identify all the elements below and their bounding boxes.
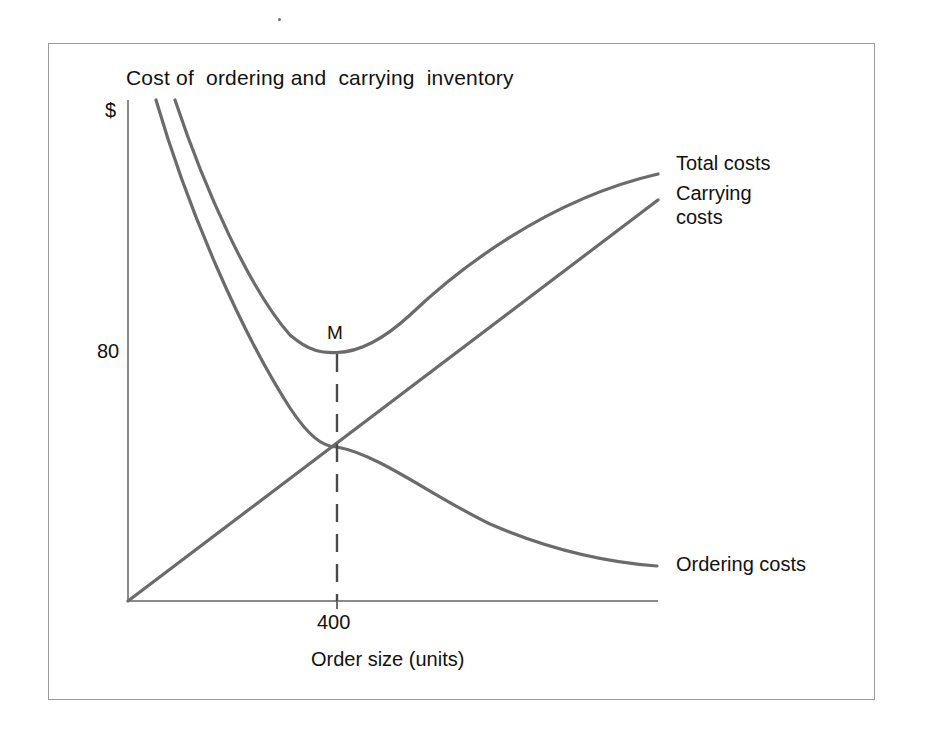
chart-title: Cost of ordering and carrying inventory [126, 66, 514, 91]
x-axis-tick-label-400: 400 [317, 611, 350, 635]
annotation-label-m: M [327, 322, 343, 344]
series-label-ordering-costs: Ordering costs [676, 553, 806, 577]
series-curve-total-costs [175, 100, 658, 353]
chart-plot-area [0, 0, 925, 739]
series-label-total-costs: Total costs [676, 152, 770, 176]
series-label-carrying-costs-line2: costs [676, 206, 723, 228]
series-line-carrying-costs [128, 200, 658, 601]
series-curve-ordering-costs [156, 100, 657, 566]
series-label-carrying-costs-line1: Carrying [676, 182, 752, 204]
figure-container: Cost of ordering and carrying inventory … [0, 0, 925, 739]
y-axis-label: $ [105, 99, 116, 123]
x-axis-label: Order size (units) [311, 648, 464, 672]
series-label-carrying-costs: Carryingcosts [676, 182, 752, 229]
y-axis-tick-label-80: 80 [97, 340, 119, 364]
